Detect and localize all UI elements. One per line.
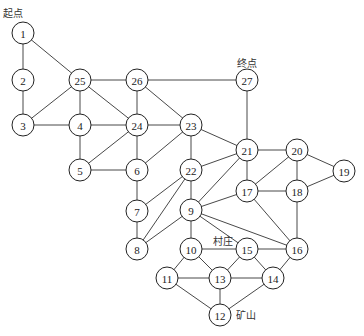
node-27: 27 xyxy=(236,69,258,91)
node-label: 4 xyxy=(77,120,83,132)
node-9: 9 xyxy=(180,199,202,221)
node-label: 14 xyxy=(268,273,280,285)
node-8: 8 xyxy=(126,238,148,260)
node-10: 10 xyxy=(180,238,202,260)
node-5: 5 xyxy=(69,159,91,181)
node-25: 25 xyxy=(69,69,91,91)
node-19: 19 xyxy=(333,160,355,182)
node-label: 8 xyxy=(134,244,140,256)
end-label: 终点 xyxy=(237,57,257,69)
node-label: 17 xyxy=(242,186,254,198)
node-18: 18 xyxy=(286,180,308,202)
node-21: 21 xyxy=(236,139,258,161)
node-16: 16 xyxy=(286,238,308,260)
node-label: 24 xyxy=(132,120,144,132)
node-12: 12 xyxy=(209,304,231,326)
node-3: 3 xyxy=(12,114,34,136)
mine-label: 矿山 xyxy=(236,309,256,321)
node-label: 20 xyxy=(292,145,304,157)
node-label: 3 xyxy=(20,120,26,132)
nodes-layer: 1232545262467823229102721172018191516111… xyxy=(12,22,355,326)
node-label: 13 xyxy=(215,273,227,285)
node-label: 19 xyxy=(339,166,351,178)
node-label: 15 xyxy=(242,244,254,256)
node-20: 20 xyxy=(286,139,308,161)
node-7: 7 xyxy=(126,200,148,222)
edge-9-21 xyxy=(191,150,247,210)
node-label: 7 xyxy=(134,206,140,218)
network-graph: 1232545262467823229102721172018191516111… xyxy=(0,0,364,336)
node-label: 12 xyxy=(215,310,226,322)
node-label: 21 xyxy=(242,145,253,157)
node-6: 6 xyxy=(126,159,148,181)
node-label: 10 xyxy=(186,244,198,256)
node-label: 5 xyxy=(77,165,83,177)
node-24: 24 xyxy=(126,114,148,136)
node-label: 26 xyxy=(132,75,144,87)
node-22: 22 xyxy=(180,159,202,181)
node-15: 15 xyxy=(236,238,258,260)
node-13: 13 xyxy=(209,267,231,289)
node-label: 16 xyxy=(292,244,304,256)
node-label: 22 xyxy=(186,165,197,177)
node-label: 25 xyxy=(75,75,87,87)
node-26: 26 xyxy=(126,69,148,91)
node-label: 9 xyxy=(188,205,194,217)
node-11: 11 xyxy=(156,267,178,289)
node-label: 11 xyxy=(162,273,173,285)
node-17: 17 xyxy=(236,180,258,202)
node-label: 2 xyxy=(20,75,26,87)
node-14: 14 xyxy=(262,267,284,289)
node-label: 27 xyxy=(242,75,254,87)
village-label: 村庄 xyxy=(213,235,233,247)
node-label: 23 xyxy=(186,120,198,132)
node-4: 4 xyxy=(69,114,91,136)
node-1: 1 xyxy=(12,22,34,44)
node-label: 1 xyxy=(20,28,26,40)
node-23: 23 xyxy=(180,114,202,136)
start-label: 起点 xyxy=(3,8,23,19)
node-label: 6 xyxy=(134,165,140,177)
node-label: 18 xyxy=(292,186,304,198)
node-2: 2 xyxy=(12,69,34,91)
